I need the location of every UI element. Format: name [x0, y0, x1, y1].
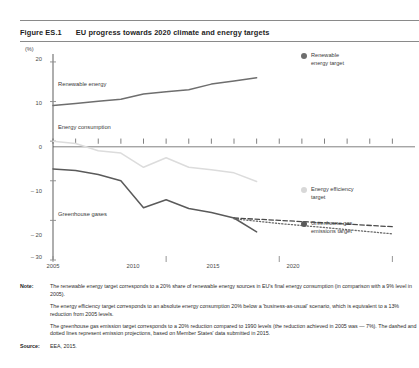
legend-label-ghg: Greenhouse gas emissions target: [311, 220, 352, 235]
legend-item-renewable-energy-target[interactable]: Renewable energy target: [301, 52, 344, 67]
legend-dot-icon-renewable: [301, 53, 307, 59]
legend-label-renewable: Renewable energy target: [311, 52, 344, 67]
chart-container: (%) 20 10 0 – 10 – 20 – 30 2005 2010 201…: [20, 44, 419, 274]
source-label: Source:: [20, 343, 50, 351]
legend-label-efficiency: Energy efficiency target: [311, 186, 354, 201]
legend-dot-icon-efficiency: [301, 187, 307, 193]
note-paragraph-2: The energy efficiency target corresponds…: [50, 303, 419, 318]
note-row: Note: The renewable energy target corres…: [20, 283, 419, 338]
figure-title-row: Figure ES.1 EU progress towards 2020 cli…: [20, 25, 419, 39]
chart-plot: [20, 44, 419, 274]
notes-block: Note: The renewable energy target corres…: [20, 283, 419, 350]
legend-item-greenhouse-gas-target[interactable]: Greenhouse gas emissions target: [301, 220, 352, 235]
legend-item-energy-efficiency-target[interactable]: Energy efficiency target: [301, 186, 354, 201]
source-value: EEA, 2015.: [50, 343, 77, 351]
series-paths: [53, 78, 392, 234]
figure-number: Figure ES.1: [20, 28, 62, 37]
note-paragraph-1: The renewable energy target corresponds …: [50, 283, 419, 298]
page-title: EU progress towards 2020 climate and ene…: [76, 28, 270, 37]
figure-page: Figure ES.1 EU progress towards 2020 cli…: [0, 0, 419, 368]
title-rule-bottom: [20, 41, 419, 42]
title-rule-top: [20, 20, 419, 21]
note-paragraph-3: The greenhouse gas emission target corre…: [50, 323, 419, 338]
legend-dot-icon-ghg: [301, 221, 307, 227]
x-axis-ticks: [53, 139, 392, 144]
note-label: Note:: [20, 283, 50, 338]
note-body: The renewable energy target corresponds …: [50, 283, 419, 338]
source-row: Source: EEA, 2015.: [20, 343, 419, 351]
